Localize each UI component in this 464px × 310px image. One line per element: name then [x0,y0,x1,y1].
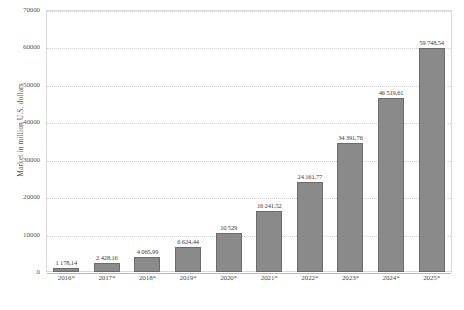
bar[interactable] [134,257,160,272]
y-axis-tick-label: 0 [37,268,40,276]
bar[interactable] [94,263,120,272]
x-axis-tick-label: 2020* [208,274,249,282]
y-axis-tick-label: 60000 [23,43,40,51]
bar-group: 2 428,16 [87,10,128,272]
bar-group: 16 241,52 [249,10,290,272]
bar[interactable] [256,211,282,272]
bar-group: 6 624,44 [168,10,209,272]
x-axis-tick-label: 2025* [411,274,452,282]
bar-group: 1 178,14 [46,10,87,272]
bar-chart: Market in million U.S. dollars 010000200… [0,0,464,310]
bar[interactable] [297,182,323,272]
bar-group: 24 161,77 [290,10,331,272]
y-axis-tick-label: 50000 [23,81,40,89]
bar-value-label: 24 161,77 [298,173,323,180]
bar-value-label: 59 748,54 [419,39,444,46]
x-axis-tick-label: 2017* [87,274,128,282]
bar[interactable] [216,233,242,272]
y-axis-tick-label: 20000 [23,193,40,201]
x-axis-tick-label: 2023* [330,274,371,282]
bar-group: 10 529 [208,10,249,272]
x-axis-tick-label: 2016* [46,274,87,282]
bar-value-label: 4 065,99 [137,248,159,255]
bar-value-label: 46 519,61 [379,89,404,96]
bar-value-label: 1 178,14 [56,259,78,266]
x-axis-tick-labels: 2016*2017*2018*2019*2020*2021*2022*2023*… [46,274,452,290]
bar-group: 34 391,76 [330,10,371,272]
bar-value-label: 6 624,44 [177,238,199,245]
x-axis-tick-label: 2021* [249,274,290,282]
bar-value-label: 34 391,76 [338,134,363,141]
y-axis-tick-label: 30000 [23,156,40,164]
bar-group: 59 748,54 [411,10,452,272]
y-axis-tick-label: 10000 [23,231,40,239]
y-axis-tick-label: 40000 [23,118,40,126]
bar[interactable] [378,98,404,272]
x-axis-tick-label: 2018* [127,274,168,282]
y-axis-tick-label: 70000 [23,6,40,14]
bar-value-label: 16 241,52 [257,202,282,209]
bar-group: 4 065,99 [127,10,168,272]
bar[interactable] [419,48,445,272]
bar[interactable] [175,247,201,272]
bars-container: 1 178,142 428,164 065,996 624,4410 52916… [46,10,452,272]
x-axis-tick-label: 2024* [371,274,412,282]
x-axis-tick-label: 2022* [290,274,331,282]
bar-value-label: 2 428,16 [96,254,118,261]
bar[interactable] [337,143,363,272]
bar-group: 46 519,61 [371,10,412,272]
bar[interactable] [53,268,79,272]
bar-value-label: 10 529 [220,224,237,231]
y-axis-tick-labels: 010000200003000040000500006000070000 [0,10,44,272]
x-axis-tick-label: 2019* [168,274,209,282]
